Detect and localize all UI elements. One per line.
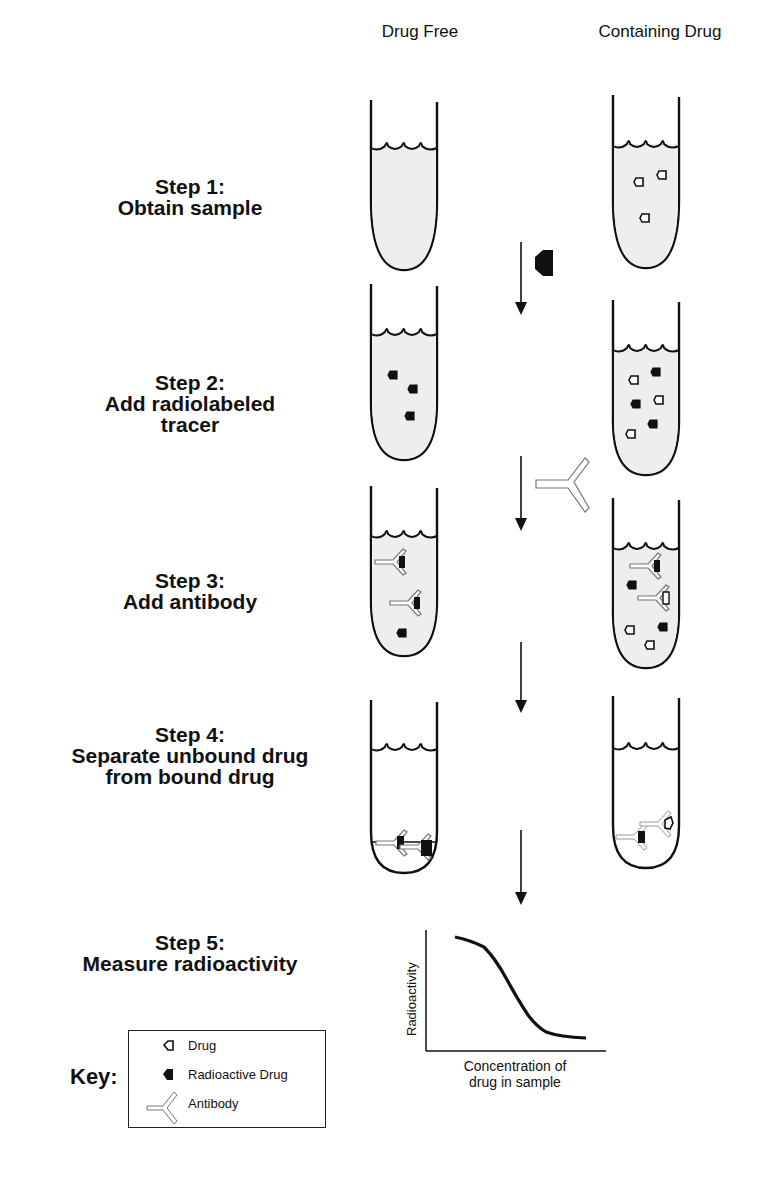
arrow-step3-to-step4 [515,642,527,713]
chart-ylabel: Radioactivity [404,962,419,1036]
tube-step4-containing-drug [613,696,679,868]
radioactive-drug-icon [535,250,553,276]
key-label-radioactive-drug: Radioactive Drug [188,1067,288,1082]
antibody-icon [536,458,589,512]
tube-step4-drug-free [371,700,437,873]
chart-xlabel-line2: drug in sample [420,1074,610,1090]
drug-icon [634,178,643,186]
tube-step3-drug-free [371,486,437,656]
arrow-add-antibody [515,456,589,531]
drug-icon [657,171,666,179]
key-label-drug: Drug [188,1038,216,1053]
tube-step3-containing-drug [613,498,679,668]
drug-icon [640,214,649,222]
tube-step2-drug-free [371,284,437,460]
dose-response-curve [455,937,586,1038]
diagram-graphics [0,0,758,1184]
key-title: Key: [70,1064,118,1090]
chart-xlabel-line1: Concentration of [420,1058,610,1074]
key-label-antibody: Antibody [188,1096,239,1111]
tube-step2-containing-drug [613,300,679,475]
tube-step1-drug-free [371,100,437,270]
arrow-step4-to-step5 [515,830,527,905]
radioactivity-chart [426,930,606,1051]
arrow-add-tracer [515,242,553,315]
tube-step1-containing-drug [613,95,679,268]
chart-xlabel: Concentration of drug in sample [420,1058,610,1090]
